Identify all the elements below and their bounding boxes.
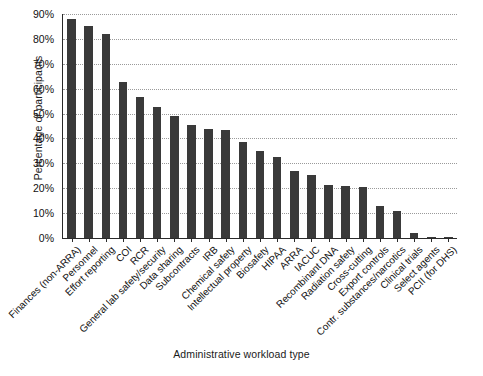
- bar: [136, 97, 145, 238]
- x-tick-mark: [311, 238, 312, 242]
- y-tick-label: 40%: [0, 132, 54, 144]
- bar-chart-figure: Percentage of participants 0%10%20%30%40…: [0, 0, 483, 376]
- bar: [341, 186, 350, 238]
- bar: [290, 171, 299, 238]
- bar: [239, 142, 248, 238]
- x-tick-mark: [157, 238, 158, 242]
- bar: [84, 26, 93, 238]
- x-tick-mark: [174, 238, 175, 242]
- bar: [376, 206, 385, 238]
- x-tick-mark: [346, 238, 347, 242]
- y-tick-label: 30%: [0, 157, 54, 169]
- x-tick-mark: [260, 238, 261, 242]
- x-tick-mark: [106, 238, 107, 242]
- x-tick-mark: [380, 238, 381, 242]
- y-tick-label: 0%: [0, 232, 54, 244]
- bar: [153, 107, 162, 238]
- bar: [119, 82, 128, 238]
- y-tick-label: 60%: [0, 83, 54, 95]
- bars-series: [63, 14, 457, 238]
- x-tick-mark: [329, 238, 330, 242]
- x-tick-mark: [397, 238, 398, 242]
- y-tick-label: 80%: [0, 33, 54, 45]
- y-tick-label: 50%: [0, 108, 54, 120]
- y-tick-label: 10%: [0, 207, 54, 219]
- x-tick-mark: [294, 238, 295, 242]
- bar: [273, 157, 282, 238]
- bar: [359, 187, 368, 238]
- x-tick-mark: [72, 238, 73, 242]
- bar: [67, 19, 76, 238]
- bar: [170, 116, 179, 238]
- x-tick-mark: [363, 238, 364, 242]
- y-tick-label: 20%: [0, 182, 54, 194]
- bar: [204, 129, 213, 239]
- x-tick-mark: [226, 238, 227, 242]
- bar: [256, 151, 265, 238]
- bar: [102, 34, 111, 238]
- x-tick-mark: [140, 238, 141, 242]
- x-tick-mark: [191, 238, 192, 242]
- bar: [393, 211, 402, 238]
- x-tick-mark: [89, 238, 90, 242]
- y-tick-label: 70%: [0, 58, 54, 70]
- x-tick-mark: [414, 238, 415, 242]
- bar: [324, 185, 333, 239]
- x-tick-mark: [243, 238, 244, 242]
- y-tick-label: 90%: [0, 8, 54, 20]
- bar: [187, 125, 196, 238]
- bar: [221, 130, 230, 238]
- plot-area: [62, 14, 457, 239]
- bar: [307, 175, 316, 238]
- x-axis-title: Administrative workload type: [0, 348, 483, 360]
- x-tick-mark: [448, 238, 449, 242]
- x-tick-mark: [209, 238, 210, 242]
- y-axis-tick-labels: 0%10%20%30%40%50%60%70%80%90%: [0, 0, 58, 376]
- x-tick-mark: [123, 238, 124, 242]
- x-tick-mark: [277, 238, 278, 242]
- x-tick-mark: [431, 238, 432, 242]
